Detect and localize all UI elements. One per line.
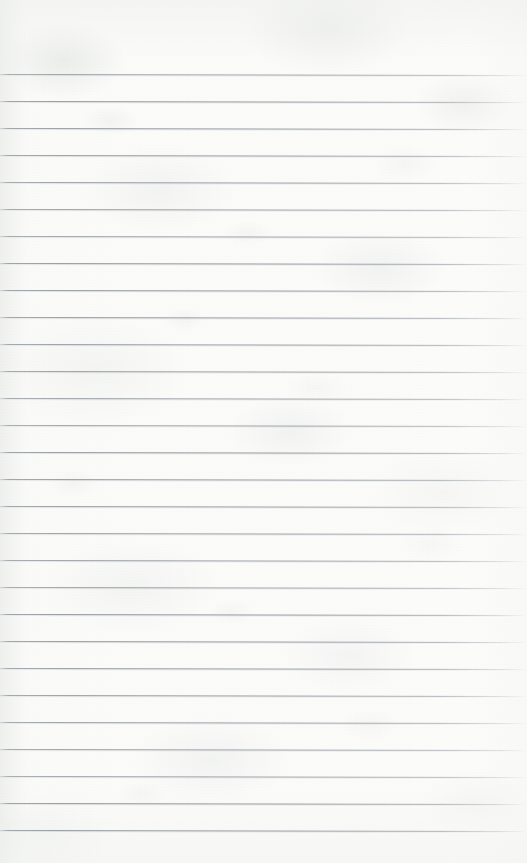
top-margin-area (0, 0, 527, 74)
handwritten-content-area (0, 74, 527, 863)
lined-paper-sheet (0, 0, 527, 863)
